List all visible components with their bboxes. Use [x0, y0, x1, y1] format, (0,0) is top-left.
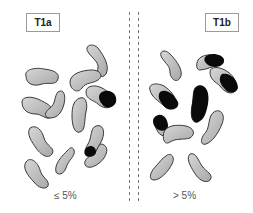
- t1a-t1b-diagram: T1a T1b ≤ 5% > 5%: [0, 0, 253, 213]
- t1a-label: T1a: [26, 13, 60, 32]
- t1b-threshold-caption: > 5%: [173, 190, 196, 201]
- t1b-tumor-foci: [153, 54, 238, 131]
- t1a-cells: [22, 45, 112, 188]
- t1b-label: T1b: [205, 13, 239, 32]
- divider-dashed-lines: [130, 12, 139, 203]
- t1a-threshold-caption: ≤ 5%: [54, 190, 77, 201]
